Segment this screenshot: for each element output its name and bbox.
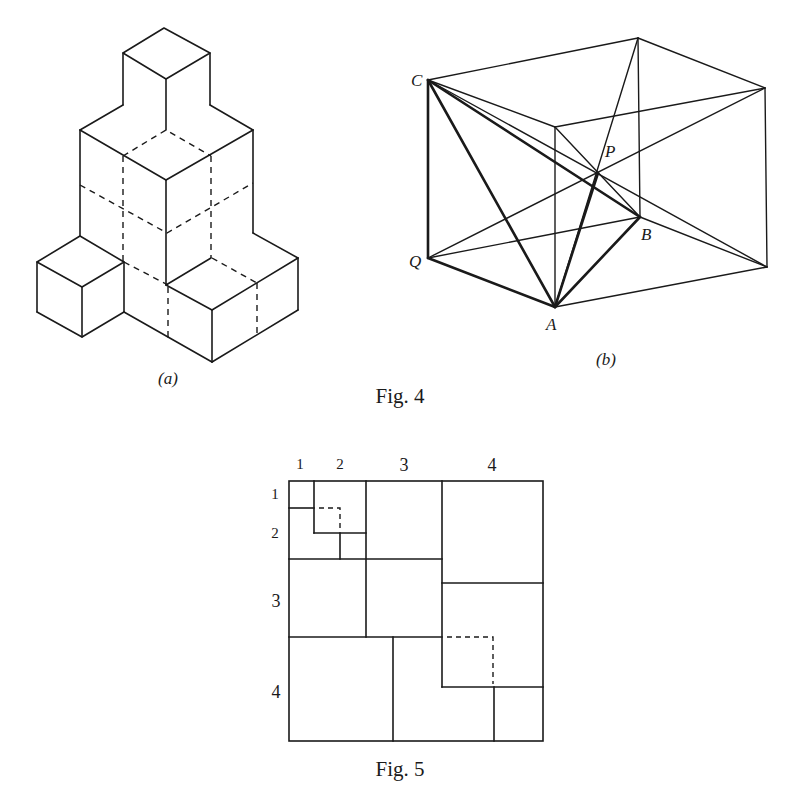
column-label-2: 2 — [336, 456, 344, 472]
point-a-label: A — [545, 315, 557, 334]
row-label-1: 1 — [271, 486, 279, 502]
figure-5-row-labels: 1 2 3 4 — [271, 486, 280, 702]
figure-4a-hidden-edges — [80, 130, 257, 337]
point-p-label: P — [604, 142, 615, 161]
figure-canvas: (a) C P B Q A (b) Fig. 4 — [0, 0, 805, 802]
column-label-1: 1 — [296, 456, 304, 472]
column-label-4: 4 — [488, 455, 497, 475]
figure-4b-label: (b) — [596, 350, 616, 369]
column-label-3: 3 — [400, 455, 409, 475]
point-q-label: Q — [409, 252, 421, 271]
figure-5-dashed-overlaps — [319, 508, 493, 684]
row-label-3: 3 — [272, 591, 281, 611]
point-b-label: B — [641, 225, 652, 244]
figure-4a-label: (a) — [158, 369, 178, 388]
figure-5-caption: Fig. 5 — [375, 757, 424, 781]
figure-5-square-dissection — [289, 481, 543, 741]
figure-4-caption: Fig. 4 — [375, 384, 425, 408]
row-label-2: 2 — [271, 525, 279, 541]
row-label-4: 4 — [272, 682, 281, 702]
figure-5-column-labels: 1 2 3 4 — [296, 455, 496, 475]
figure-4b-tetrahedron — [428, 80, 640, 307]
point-c-label: C — [411, 71, 423, 90]
